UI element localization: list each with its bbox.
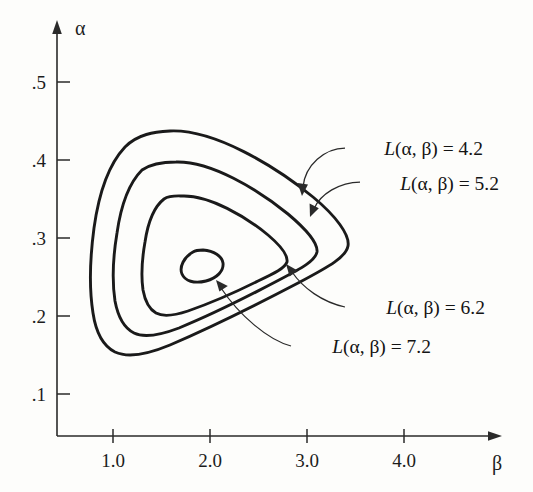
contour-label-4.2-args: (α, β) — [395, 138, 438, 160]
x-axis-arrowhead — [488, 431, 502, 441]
y-axis-arrowhead — [52, 20, 62, 34]
leader-4.2 — [298, 148, 345, 196]
contour-label-7.2: L(α, β) = 7.2 — [298, 336, 455, 358]
axes-group — [52, 20, 502, 441]
contour-label-6.2-eq: = 6.2 — [440, 297, 485, 318]
y-tick-label-0.4: .4 — [32, 150, 47, 171]
y-tick-label-0.5: .5 — [32, 72, 46, 93]
contour-label-5.2-fn: L — [399, 173, 411, 194]
contour-label-7.2-eq: = 7.2 — [386, 336, 431, 357]
leader-arrowhead-7.2 — [216, 280, 228, 291]
y-tick-label-0.1: .1 — [32, 384, 46, 405]
y-tick-label-0.3: .3 — [32, 228, 46, 249]
contour-label-5.2-eq: = 5.2 — [454, 173, 499, 194]
y-ticks-group — [57, 82, 70, 394]
x-axis-label-beta: β — [492, 452, 502, 475]
x-tick-label-1.0: 1.0 — [101, 450, 125, 471]
contour-curve-6.2 — [142, 196, 287, 316]
y-tick-label-0.2: .2 — [32, 306, 46, 327]
contour-curve-7.2 — [181, 250, 223, 282]
contour-label-6.2: L(α, β) = 6.2 — [352, 297, 509, 319]
contour-label-7.2-fn: L — [331, 336, 343, 357]
contour-label-4.2-fn: L — [383, 138, 395, 159]
contour-label-4.2: L(α, β) = 4.2 — [350, 138, 507, 160]
x-tick-label-2.0: 2.0 — [198, 450, 222, 471]
contour-label-7.2-args: (α, β) — [343, 336, 386, 358]
contour-label-4.2-eq: = 4.2 — [438, 138, 483, 159]
y-tick-labels-group: .5 .4 .3 .2 .1 — [32, 72, 47, 405]
x-tick-label-4.0: 4.0 — [392, 450, 416, 471]
x-tick-label-3.0: 3.0 — [295, 450, 319, 471]
contour-label-6.2-args: (α, β) — [397, 297, 440, 319]
contour-label-5.2: L(α, β) = 5.2 — [366, 173, 523, 195]
leader-arrowhead-4.2 — [298, 183, 308, 196]
x-tick-labels-group: 1.0 2.0 3.0 4.0 — [101, 450, 416, 471]
y-axis-label-alpha: α — [75, 17, 86, 39]
leader-7.2 — [216, 280, 291, 346]
contour-plot-figure: .5 .4 .3 .2 .1 1.0 2.0 3.0 4.0 α β — [0, 0, 533, 492]
contour-curve-4.2 — [90, 131, 348, 355]
plot-canvas: .5 .4 .3 .2 .1 1.0 2.0 3.0 4.0 α β — [0, 0, 533, 492]
contour-label-5.2-args: (α, β) — [411, 173, 454, 195]
leader-arrowhead-5.2 — [310, 203, 319, 217]
contour-label-6.2-fn: L — [385, 297, 397, 318]
